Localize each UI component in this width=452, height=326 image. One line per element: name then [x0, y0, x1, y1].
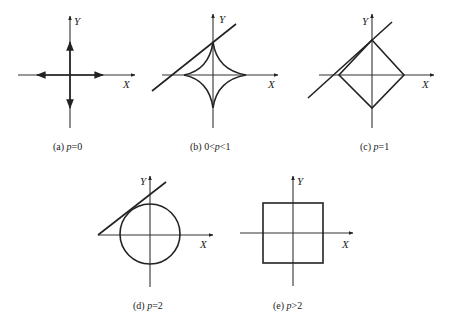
- y-axis-label: Y: [140, 175, 148, 187]
- lp-norm-unit-balls-figure: Y X (a) p=0 Y X (b) 0<p<1 Y X (c) p=1 Y …: [0, 0, 452, 326]
- panel-b: Y X (b) 0<p<1: [152, 13, 278, 153]
- y-axis-label: Y: [362, 15, 370, 27]
- caption-e: (e) p>2: [273, 300, 302, 312]
- tangent-line: [98, 182, 166, 235]
- y-axis-label: Y: [297, 175, 305, 187]
- x-axis-label: X: [122, 78, 131, 90]
- caption-b: (b) 0<p<1: [190, 141, 230, 153]
- panel-c: Y X (c) p=1: [308, 14, 434, 153]
- caption-d: (d) p=2: [133, 300, 163, 312]
- y-axis-label: Y: [74, 15, 82, 27]
- x-axis-label: X: [341, 238, 350, 250]
- panel-a: Y X (a) p=0: [18, 15, 135, 153]
- y-axis-label: Y: [219, 13, 227, 25]
- x-axis-label: X: [199, 238, 208, 250]
- caption-c: (c) p=1: [360, 141, 389, 153]
- x-axis-label: X: [421, 78, 430, 90]
- caption-a: (a) p=0: [53, 141, 82, 153]
- cross-arrows-shape: [37, 42, 103, 108]
- tangent-line: [152, 24, 236, 91]
- panel-d: Y X (d) p=2: [98, 175, 213, 312]
- x-axis-label: X: [267, 78, 276, 90]
- panel-e: Y X (e) p>2: [240, 175, 353, 312]
